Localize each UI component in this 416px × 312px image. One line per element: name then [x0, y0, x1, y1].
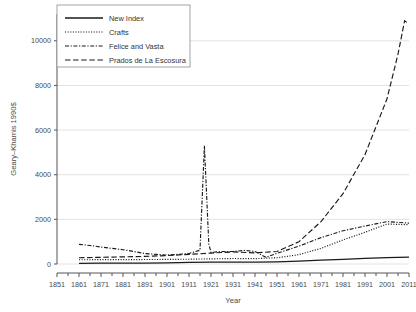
x-tick-label-1911: 1911 [181, 280, 196, 289]
x-tick-label-1921: 1921 [203, 280, 219, 289]
x-tick-label-1901: 1901 [159, 280, 175, 289]
x-tick-label-1981: 1981 [335, 280, 351, 289]
y-tick-label-4000: 4000 [35, 170, 51, 179]
x-tick-label-1991: 1991 [357, 280, 373, 289]
x-tick-label-1961: 1961 [291, 280, 307, 289]
y-axis-title: Geary–Khamis 1990$ [9, 102, 18, 176]
y-tick-label-6000: 6000 [35, 126, 51, 135]
y-tick-label-0: 0 [47, 260, 51, 269]
x-tick-label-1861: 1861 [71, 280, 87, 289]
chart-container: 0200040006000800010000185118611871188118… [0, 0, 416, 312]
x-tick-label-1891: 1891 [137, 280, 153, 289]
series-line-new-index [79, 257, 409, 263]
legend-label-3: Prados de La Escosura [109, 56, 187, 65]
x-tick-label-1881: 1881 [115, 280, 131, 289]
x-tick-label-1851: 1851 [49, 280, 65, 289]
legend-label-0: New Index [109, 14, 144, 23]
x-axis-title: Year [225, 296, 241, 305]
legend-label-2: Felice and Vasta [109, 42, 164, 51]
x-tick-label-2001: 2001 [379, 280, 395, 289]
x-tick-label-1941: 1941 [247, 280, 263, 289]
x-tick-label-1931: 1931 [225, 280, 241, 289]
series-line-crafts [79, 224, 409, 260]
series-line-felice-and-vasta [79, 146, 409, 258]
x-tick-label-1871: 1871 [93, 280, 109, 289]
y-tick-label-8000: 8000 [35, 81, 51, 90]
legend-label-1: Crafts [109, 28, 129, 37]
line-chart: 0200040006000800010000185118611871188118… [0, 0, 416, 312]
x-tick-label-1951: 1951 [269, 280, 285, 289]
x-tick-label-2011: 2011 [401, 280, 416, 289]
x-tick-label-1971: 1971 [313, 280, 329, 289]
y-tick-label-10000: 10000 [31, 36, 51, 45]
y-tick-label-2000: 2000 [35, 215, 51, 224]
